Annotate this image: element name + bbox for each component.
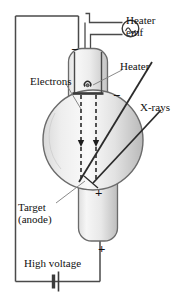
figure-canvas: Heater emf Heater X-rays Electrons Targe… [0, 0, 186, 297]
polarity-minus-cathode-side: − [113, 89, 120, 102]
label-high-voltage: High voltage [24, 257, 81, 269]
xray-tube-diagram [0, 0, 186, 297]
label-heater-emf-line2: emf [126, 26, 155, 38]
label-target-anode: Target (anode) [18, 201, 52, 225]
label-target-line2: (anode) [18, 213, 52, 225]
label-electrons: Electrons [30, 75, 72, 87]
label-xrays: X-rays [140, 101, 170, 113]
polarity-plus-tube-bottom: + [98, 242, 105, 255]
label-target-line1: Target [18, 201, 52, 213]
label-heater-emf: Heater emf [126, 14, 155, 38]
label-heater: Heater [120, 60, 149, 72]
label-heater-emf-line1: Heater [126, 14, 155, 26]
polarity-plus-anode: + [95, 186, 102, 199]
polarity-minus-cathode-top: − [71, 43, 78, 56]
